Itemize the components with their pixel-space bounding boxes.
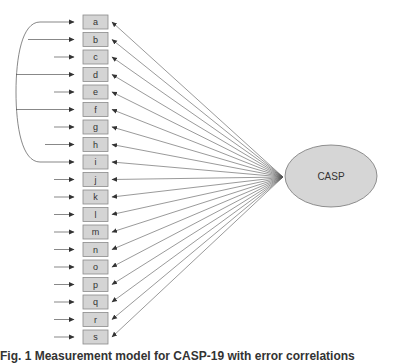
indicator-label: p bbox=[93, 280, 98, 290]
loading-arrow bbox=[112, 177, 283, 232]
loading-arrow bbox=[112, 177, 283, 180]
factor-label: CASP bbox=[317, 171, 345, 182]
indicator-label: c bbox=[93, 52, 98, 62]
loading-arrow bbox=[112, 177, 283, 267]
indicator-r: r bbox=[83, 313, 108, 327]
indicator-h: h bbox=[83, 138, 108, 152]
loading-arrow bbox=[112, 110, 283, 178]
indicator-j: j bbox=[83, 173, 108, 187]
indicator-label: k bbox=[93, 192, 98, 202]
indicator-boxes: abcdefghijklmnopqrs bbox=[83, 15, 108, 344]
indicator-label: q bbox=[93, 297, 98, 307]
indicator-i: i bbox=[83, 155, 108, 169]
indicator-q: q bbox=[83, 295, 108, 309]
error-correlation-bracket bbox=[16, 22, 40, 162]
indicator-label: i bbox=[95, 157, 97, 167]
indicator-label: o bbox=[93, 262, 98, 272]
indicator-m: m bbox=[83, 225, 108, 239]
indicator-b: b bbox=[83, 33, 108, 47]
indicator-k: k bbox=[83, 190, 108, 204]
indicator-label: d bbox=[93, 70, 98, 80]
error-arrows bbox=[16, 22, 74, 337]
indicator-l: l bbox=[83, 208, 108, 222]
loading-arrow bbox=[112, 75, 283, 178]
indicator-label: m bbox=[92, 227, 100, 237]
indicator-d: d bbox=[83, 68, 108, 82]
loading-arrow bbox=[112, 40, 283, 178]
indicator-label: r bbox=[94, 315, 97, 325]
indicator-label: g bbox=[93, 122, 98, 132]
indicator-a: a bbox=[83, 15, 108, 29]
indicator-e: e bbox=[83, 85, 108, 99]
loading-arrow bbox=[112, 57, 283, 177]
indicator-n: n bbox=[83, 243, 108, 257]
loading-arrow bbox=[112, 177, 283, 285]
indicator-label: l bbox=[95, 210, 97, 220]
loading-arrow bbox=[112, 177, 283, 197]
loading-arrow bbox=[112, 22, 283, 177]
indicator-label: h bbox=[93, 140, 98, 150]
indicator-label: s bbox=[93, 332, 98, 342]
indicator-p: p bbox=[83, 278, 108, 292]
indicator-label: a bbox=[93, 17, 98, 27]
correlation-curve bbox=[16, 22, 40, 162]
loading-arrow bbox=[112, 177, 283, 250]
figure-caption: Fig. 1 Measurement model for CASP-19 wit… bbox=[0, 349, 394, 363]
indicator-f: f bbox=[83, 103, 108, 117]
factor-loading-lines bbox=[112, 22, 283, 337]
indicator-g: g bbox=[83, 120, 108, 134]
factor-node-casp: CASP bbox=[285, 145, 377, 207]
indicator-label: e bbox=[93, 87, 98, 97]
indicator-label: b bbox=[93, 35, 98, 45]
indicator-s: s bbox=[83, 330, 108, 344]
loading-arrow bbox=[112, 177, 283, 320]
indicator-label: j bbox=[94, 175, 97, 185]
indicator-label: n bbox=[93, 245, 98, 255]
loading-arrow bbox=[112, 145, 283, 178]
indicator-c: c bbox=[83, 50, 108, 64]
loading-arrow bbox=[112, 177, 283, 337]
indicator-o: o bbox=[83, 260, 108, 274]
